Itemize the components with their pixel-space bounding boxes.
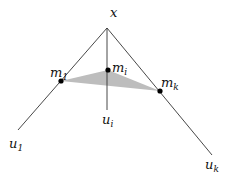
label-mi-sub: i — [124, 67, 127, 77]
label-u1-sub: 1 — [17, 143, 23, 153]
label-x: x — [110, 6, 117, 19]
label-m1-text: m — [50, 65, 62, 80]
label-mi-text: m — [112, 60, 124, 75]
label-x-text: x — [110, 5, 117, 20]
label-mk-text: m — [161, 75, 173, 90]
label-uk-sub: k — [213, 164, 218, 174]
shaded-triangle — [61, 70, 160, 91]
label-mk: mk — [161, 76, 179, 92]
label-uk: uk — [205, 158, 219, 174]
label-m1: m1 — [50, 66, 68, 82]
label-m1-sub: 1 — [62, 72, 68, 82]
label-ui-sub: i — [110, 119, 113, 129]
label-u1: u1 — [9, 137, 23, 153]
label-ui: ui — [102, 113, 113, 129]
label-mi: mi — [112, 61, 127, 77]
diagram-canvas — [0, 0, 234, 180]
point-mi — [105, 67, 110, 72]
label-mk-sub: k — [173, 82, 178, 92]
